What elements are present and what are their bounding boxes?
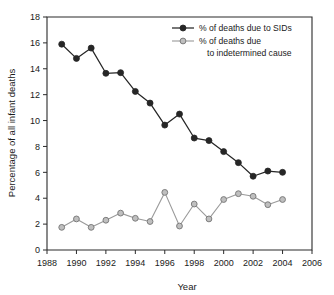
data-point xyxy=(74,216,80,222)
data-point xyxy=(265,202,271,208)
x-tick-label: 1994 xyxy=(125,258,145,268)
legend-label: % of deaths due xyxy=(199,36,261,46)
x-tick-label: 2002 xyxy=(243,258,263,268)
y-axis-tick-labels: 024681012141618 xyxy=(30,12,40,255)
x-tick-label: 1990 xyxy=(66,258,86,268)
data-point xyxy=(103,217,109,223)
x-axis-ticks xyxy=(47,250,312,254)
data-point xyxy=(162,122,168,128)
data-point xyxy=(177,223,183,229)
data-point xyxy=(59,41,65,47)
data-point xyxy=(235,191,241,197)
data-point xyxy=(88,45,94,51)
y-tick-label: 4 xyxy=(35,193,40,203)
series-line xyxy=(62,44,283,176)
x-tick-label: 2000 xyxy=(214,258,234,268)
chart-figure: 024681012141618 198819901992199419961998… xyxy=(0,0,334,295)
data-point xyxy=(206,138,212,144)
data-point xyxy=(147,100,153,106)
data-point xyxy=(162,190,168,196)
y-tick-label: 10 xyxy=(30,116,40,126)
data-point xyxy=(250,173,256,179)
data-point xyxy=(147,219,153,225)
data-point xyxy=(132,215,138,221)
y-tick-label: 12 xyxy=(30,90,40,100)
x-tick-label: 1998 xyxy=(184,258,204,268)
x-tick-label: 1996 xyxy=(155,258,175,268)
series-line xyxy=(62,192,283,227)
x-tick-label: 1988 xyxy=(37,258,57,268)
y-axis-ticks xyxy=(43,17,47,250)
y-tick-label: 14 xyxy=(30,64,40,74)
y-tick-label: 6 xyxy=(35,168,40,178)
legend-label: to indetermined cause xyxy=(207,48,292,58)
y-axis-title: Percentage of all infant deaths xyxy=(6,69,17,198)
data-point xyxy=(206,216,212,222)
data-point xyxy=(177,111,183,117)
data-point xyxy=(221,149,227,155)
data-point xyxy=(118,70,124,76)
y-tick-label: 0 xyxy=(35,245,40,255)
data-point xyxy=(118,210,124,216)
data-point xyxy=(132,88,138,94)
data-point xyxy=(73,55,79,61)
data-point xyxy=(235,160,241,166)
legend-label: % of deaths due to SIDs xyxy=(199,23,292,33)
data-point xyxy=(221,197,227,203)
y-tick-label: 16 xyxy=(30,38,40,48)
series-lines xyxy=(62,44,283,227)
data-point xyxy=(280,197,286,203)
data-point xyxy=(250,193,256,199)
x-tick-label: 2004 xyxy=(273,258,293,268)
y-tick-label: 8 xyxy=(35,142,40,152)
legend-marker xyxy=(180,38,186,44)
series-markers xyxy=(59,41,286,230)
y-tick-label: 18 xyxy=(30,12,40,22)
data-point xyxy=(280,169,286,175)
line-chart-svg: 024681012141618 198819901992199419961998… xyxy=(0,0,334,295)
x-axis-tick-labels: 1988199019921994199619982000200220042006 xyxy=(37,258,322,268)
legend: % of deaths due to SIDs% of deaths dueto… xyxy=(172,23,292,58)
data-point xyxy=(103,70,109,76)
data-point xyxy=(265,168,271,174)
legend-marker xyxy=(180,25,186,31)
data-point xyxy=(191,135,197,141)
data-point xyxy=(191,201,197,207)
x-tick-label: 1992 xyxy=(96,258,116,268)
y-tick-label: 2 xyxy=(35,219,40,229)
data-point xyxy=(59,224,65,230)
x-tick-label: 2006 xyxy=(302,258,322,268)
x-axis-title: Year xyxy=(177,281,196,292)
data-point xyxy=(88,224,94,230)
